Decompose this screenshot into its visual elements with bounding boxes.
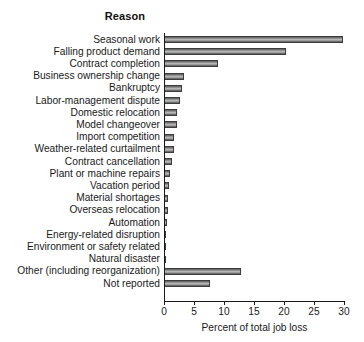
bar xyxy=(164,158,172,165)
plot-area xyxy=(164,33,345,301)
x-axis-tick-label: 0 xyxy=(149,306,179,317)
bar xyxy=(164,280,210,287)
bar xyxy=(164,134,174,141)
category-label: Bankruptcy xyxy=(0,82,160,93)
x-axis-tick-label: 5 xyxy=(179,306,209,317)
bar xyxy=(164,36,343,43)
x-axis-tick-label: 15 xyxy=(239,306,269,317)
category-label: Weather-related curtailment xyxy=(0,143,160,154)
category-label: Other (including reorganization) xyxy=(0,265,160,276)
category-label: Contract completion xyxy=(0,58,160,69)
category-label: Environment or safety related xyxy=(0,241,160,252)
bar xyxy=(164,146,174,153)
bar xyxy=(164,85,182,92)
x-axis-tick xyxy=(314,301,315,305)
category-label: Labor-management dispute xyxy=(0,95,160,106)
category-label: Model changeover xyxy=(0,119,160,130)
category-label: Not reported xyxy=(0,278,160,289)
category-label: Import competition xyxy=(0,131,160,142)
x-axis-tick-label: 30 xyxy=(329,306,359,317)
bar xyxy=(164,73,184,80)
category-label: Seasonal work xyxy=(0,34,160,45)
bar xyxy=(164,48,286,55)
bar-chart: Reason Seasonal workFalling product dema… xyxy=(0,0,364,342)
y-axis-line xyxy=(164,33,165,301)
category-label: Overseas relocation xyxy=(0,204,160,215)
category-label: Vacation period xyxy=(0,180,160,191)
x-axis-tick xyxy=(344,301,345,305)
bar xyxy=(164,97,180,104)
x-axis-tick xyxy=(284,301,285,305)
x-axis-tick xyxy=(224,301,225,305)
category-label: Domestic relocation xyxy=(0,107,160,118)
chart-title: Reason xyxy=(0,10,250,22)
category-label: Business ownership change xyxy=(0,70,160,81)
x-axis-tick xyxy=(254,301,255,305)
category-label: Automation xyxy=(0,217,160,228)
bar xyxy=(164,109,177,116)
x-axis-tick-label: 20 xyxy=(269,306,299,317)
category-label: Plant or machine repairs xyxy=(0,168,160,179)
category-axis-labels: Seasonal workFalling product demandContr… xyxy=(0,33,160,301)
x-axis-tick xyxy=(194,301,195,305)
category-label: Natural disaster xyxy=(0,253,160,264)
category-label: Contract cancellation xyxy=(0,156,160,167)
category-label: Material shortages xyxy=(0,192,160,203)
bar xyxy=(164,268,241,275)
category-label: Energy-related disruption xyxy=(0,229,160,240)
bar xyxy=(164,60,218,67)
bar xyxy=(164,121,177,128)
x-axis-tick-label: 10 xyxy=(209,306,239,317)
category-label: Falling product demand xyxy=(0,46,160,57)
x-axis-tick-label: 25 xyxy=(299,306,329,317)
x-axis-title: Percent of total job loss xyxy=(164,322,345,333)
x-axis-tick xyxy=(164,301,165,305)
